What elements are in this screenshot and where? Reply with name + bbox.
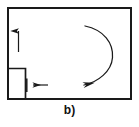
corner-notch-rectangle (8, 69, 26, 100)
figure-caption: b) (0, 103, 139, 117)
figure-container: b) (0, 0, 139, 127)
circulation-curved-arrow (84, 26, 113, 85)
